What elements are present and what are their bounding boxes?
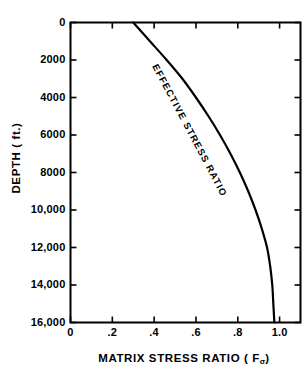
x-axis-title: MATRIX STRESS RATIO ( Fσ) xyxy=(60,352,308,364)
y-tick-label: 4000 xyxy=(40,91,65,103)
chart-figure: 0200040006000800010,00012,00014,00016,00… xyxy=(0,0,308,374)
y-tick-label: 2000 xyxy=(40,53,65,65)
x-axis-title-subscript: σ xyxy=(260,357,265,366)
y-tick-label: 12,000 xyxy=(31,241,66,253)
x-tick-label: .4 xyxy=(139,326,169,338)
y-tick-label: 14,000 xyxy=(31,278,66,290)
y-tick-label: 10,000 xyxy=(31,203,66,215)
plot-frame xyxy=(71,23,301,323)
x-tick-label: 0 xyxy=(56,326,86,338)
y-tick-label: 8000 xyxy=(40,166,65,178)
y-tick-label: 0 xyxy=(59,16,65,28)
x-tick-label: 1.0 xyxy=(265,326,295,338)
x-tick-label: .2 xyxy=(97,326,127,338)
x-tick-label: .8 xyxy=(223,326,253,338)
x-axis-title-tail: ) xyxy=(265,352,269,364)
x-tick-label: .6 xyxy=(181,326,211,338)
y-tick-label: 6000 xyxy=(40,128,65,140)
x-axis-title-main: MATRIX STRESS RATIO ( F xyxy=(98,352,260,364)
y-axis-title: DEPTH ( ft.) xyxy=(10,98,22,218)
